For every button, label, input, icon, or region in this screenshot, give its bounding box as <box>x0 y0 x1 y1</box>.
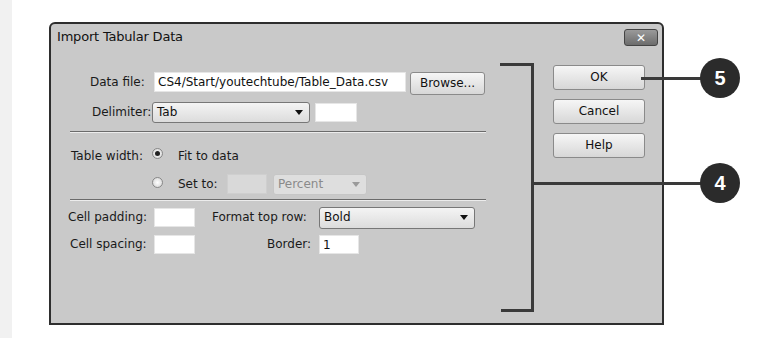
table-width-label: Table width: <box>71 149 143 163</box>
fit-to-data-label: Fit to data <box>178 149 239 163</box>
border-input[interactable]: 1 <box>319 235 359 254</box>
data-file-input[interactable]: CS4/Start/youtechtube/Table_Data.csv <box>154 72 406 92</box>
set-to-label: Set to: <box>178 177 218 191</box>
cell-spacing-label: Cell spacing: <box>70 237 147 251</box>
dialog-options-bracket <box>531 63 534 312</box>
browse-button[interactable]: Browse... <box>410 72 485 95</box>
chevron-down-icon <box>460 215 468 220</box>
dialog-title: Import Tabular Data <box>57 29 183 44</box>
import-tabular-data-dialog: Import Tabular Data ✕ Data file: CS4/Sta… <box>49 22 664 325</box>
delimiter-other-input[interactable] <box>315 103 357 122</box>
callout-4-badge: 4 <box>700 163 740 203</box>
bracket-bottom <box>501 309 534 312</box>
format-top-row-select[interactable]: Bold <box>319 207 475 229</box>
callout-5-badge: 5 <box>700 58 740 98</box>
width-unit-select[interactable]: Percent <box>273 174 367 195</box>
callout-5-leader <box>641 77 703 80</box>
close-button[interactable]: ✕ <box>624 29 658 46</box>
fit-to-data-radio[interactable] <box>152 148 163 159</box>
cell-padding-label: Cell padding: <box>68 210 147 224</box>
delimiter-select[interactable]: Tab <box>152 102 310 123</box>
cancel-button[interactable]: Cancel <box>553 99 645 124</box>
data-file-label: Data file: <box>90 75 145 89</box>
ok-button[interactable]: OK <box>553 65 645 90</box>
chevron-down-icon <box>352 182 360 187</box>
help-button[interactable]: Help <box>553 133 645 158</box>
callout-4-leader <box>533 182 703 185</box>
delimiter-label: Delimiter: <box>92 105 151 119</box>
border-label: Border: <box>267 237 311 251</box>
chevron-down-icon <box>295 110 303 115</box>
cell-spacing-input[interactable] <box>154 235 195 254</box>
close-icon: ✕ <box>636 31 646 45</box>
width-unit-value: Percent <box>278 177 323 191</box>
cell-padding-input[interactable] <box>154 208 195 227</box>
section-divider <box>70 131 486 133</box>
set-to-radio[interactable] <box>152 177 163 188</box>
section-divider <box>70 199 486 201</box>
bracket-top <box>500 63 534 66</box>
format-top-row-value: Bold <box>324 210 351 224</box>
background-strip <box>0 0 12 338</box>
delimiter-value: Tab <box>157 105 177 119</box>
format-top-row-label: Format top row: <box>212 210 307 224</box>
set-to-input[interactable] <box>227 174 267 194</box>
